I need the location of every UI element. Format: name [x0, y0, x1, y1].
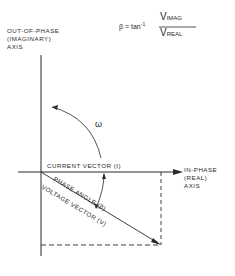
rotation-arc [52, 107, 101, 158]
current-vector-label: CURRENT VECTOR (I) [47, 162, 121, 170]
real-axis-arrowhead [173, 169, 183, 175]
omega-symbol: ω [95, 120, 103, 128]
horizontal-axis-label: IN-PHASE (REAL) AXIS [184, 166, 217, 190]
voltage-arrowhead [151, 238, 161, 245]
rotation-arrowhead [52, 105, 58, 110]
horizontal-axis-label-line2: (REAL) [184, 174, 217, 182]
phase-angle-arrow-up [102, 173, 106, 179]
diagram-lines [0, 0, 235, 276]
horizontal-axis-label-line3: AXIS [184, 182, 217, 190]
horizontal-axis-label-line1: IN-PHASE [184, 166, 217, 174]
